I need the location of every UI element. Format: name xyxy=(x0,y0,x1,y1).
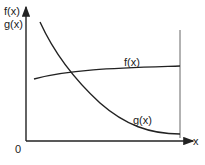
x-axis-label: x xyxy=(193,135,199,147)
series-label-f: f(x) xyxy=(124,56,140,68)
series-f xyxy=(34,66,180,79)
y-axis-label-f: f(x) xyxy=(4,5,20,17)
origin-label: 0 xyxy=(15,143,21,155)
series-g xyxy=(40,22,180,134)
y-axis-label-g: g(x) xyxy=(4,18,23,30)
series-label-g: g(x) xyxy=(133,114,152,126)
chart: f(x) g(x) f(x) g(x) x 0 xyxy=(0,0,205,165)
